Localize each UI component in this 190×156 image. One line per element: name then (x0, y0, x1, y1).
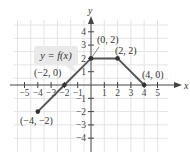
x-tick-label: 2 (115, 88, 120, 98)
y-tick-label: −2 (76, 107, 86, 117)
point-label: (2, 2) (115, 45, 137, 57)
x-tick-label: −5 (19, 88, 29, 98)
y-tick-label: 3 (81, 40, 86, 50)
point-marker (36, 109, 41, 114)
point-label: (−4, −2) (20, 115, 53, 127)
function-label: y = f(x) (39, 50, 72, 62)
y-axis-arrow-icon (88, 16, 94, 24)
y-tick-label: −4 (76, 133, 86, 143)
point-marker (142, 83, 147, 88)
y-tick-label: −3 (76, 120, 86, 130)
function-graph: −5 −4 −3 −2 −1 1 2 3 4 5 4 3 2 1 −1 −2 −… (0, 0, 190, 156)
x-tick-labels: −5 −4 −3 −2 −1 1 2 3 4 5 (19, 88, 160, 98)
y-tick-label: 4 (81, 27, 86, 37)
x-tick-label: 1 (102, 88, 107, 98)
x-tick-label: 4 (142, 88, 147, 98)
y-axis-label: y (87, 5, 93, 16)
x-axis-label: x (183, 80, 189, 91)
point-label: (−2, 0) (34, 67, 61, 79)
axes (10, 16, 182, 152)
x-tick-label: −4 (33, 88, 43, 98)
x-axis-arrow-icon (174, 82, 182, 88)
x-tick-label: −3 (46, 88, 56, 98)
y-tick-label: −1 (76, 94, 86, 104)
point-marker (62, 83, 67, 88)
x-tick-label: 3 (129, 88, 134, 98)
point-label: (4, 0) (142, 69, 164, 81)
x-tick-label: 5 (155, 88, 160, 98)
y-tick-label: 2 (81, 54, 86, 64)
point-marker (115, 56, 120, 61)
